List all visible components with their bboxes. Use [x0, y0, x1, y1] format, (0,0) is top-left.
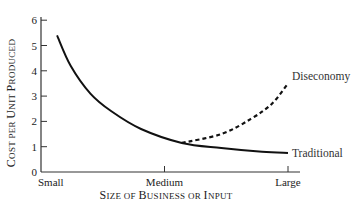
y-tick-label: 3	[32, 90, 38, 102]
x-tick-label: Medium	[146, 176, 184, 188]
series-label-diseconomy: Diseconomy	[292, 70, 350, 83]
y-tick-label: 6	[32, 14, 38, 26]
y-tick-label: 0	[32, 166, 38, 178]
x-tick-label: Large	[275, 176, 301, 188]
series-labels: TraditionalDiseconomy	[292, 70, 350, 159]
series-line-traditional	[57, 35, 288, 153]
series-label-traditional: Traditional	[292, 147, 343, 159]
x-tick-label: Small	[38, 176, 64, 188]
cost-curve-chart: 0123456 SmallMediumLarge TraditionalDise…	[0, 0, 360, 213]
y-axis-title: COST PER UNIT PRODUCED	[4, 39, 18, 168]
x-ticks: SmallMediumLarge	[38, 166, 301, 188]
y-tick-label: 2	[32, 115, 38, 127]
series-line-diseconomy	[182, 83, 288, 142]
y-tick-label: 1	[32, 141, 38, 153]
axes	[41, 17, 300, 172]
y-tick-label: 4	[32, 65, 38, 77]
x-axis-title: SIZE OF BUSINESS OR INPUT	[99, 188, 232, 202]
y-ticks: 0123456	[32, 14, 48, 178]
y-tick-label: 5	[32, 40, 38, 52]
series-lines	[57, 35, 288, 153]
